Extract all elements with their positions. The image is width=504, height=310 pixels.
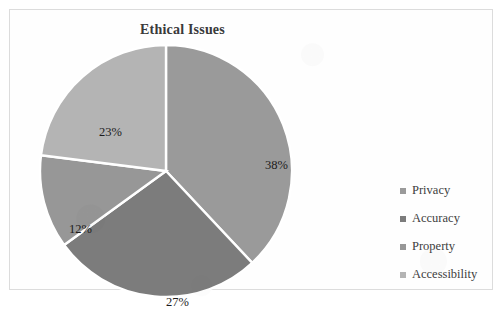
legend-swatch-icon [400,244,406,250]
legend-item-label: Accessibility [412,267,477,282]
chart-legend: PrivacyAccuracyPropertyAccessibility [400,178,504,290]
pie-svg [37,42,295,300]
legend-swatch-icon [400,188,406,194]
legend-item-property[interactable]: Property [400,234,504,259]
slice-label-accuracy: 27% [166,295,189,310]
slice-label-property: 12% [69,222,92,237]
pie-chart[interactable]: 38% 27% 12% 23% [37,42,295,300]
legend-item-accuracy[interactable]: Accuracy [400,206,504,231]
chart-frame: Ethical Issues 38% 27% 12% 23% PrivacyAc… [9,9,493,290]
legend-swatch-icon [400,272,406,278]
legend-item-label: Privacy [412,183,450,198]
pie-slice-accessibility[interactable] [41,45,166,171]
legend-item-accessibility[interactable]: Accessibility [400,262,504,287]
slice-label-privacy: 38% [265,158,288,173]
legend-item-label: Accuracy [412,211,460,226]
pie-slices [40,45,292,297]
legend-swatch-icon [400,216,406,222]
slice-label-accessibility: 23% [99,125,122,140]
legend-item-privacy[interactable]: Privacy [400,178,504,203]
legend-item-label: Property [412,239,455,254]
chart-title: Ethical Issues [10,22,355,38]
